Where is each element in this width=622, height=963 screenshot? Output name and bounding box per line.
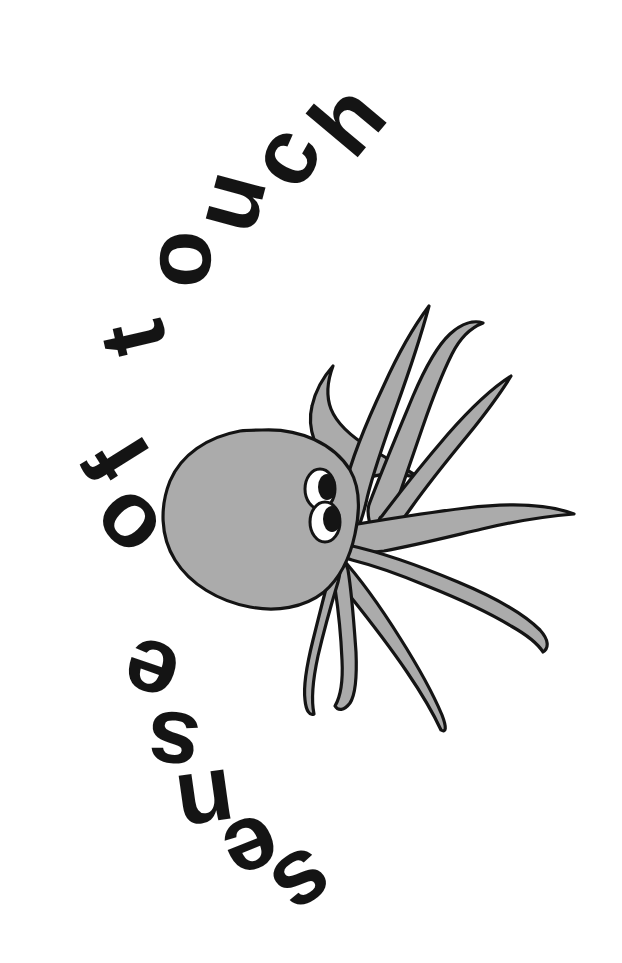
upper-eye-pupil	[318, 474, 336, 500]
title-letter-9: o	[124, 222, 231, 289]
lower-eye-pupil	[323, 506, 341, 532]
poster-canvas: s e n s e o f t o u c h sense of touch o…	[0, 0, 622, 963]
illustration-svg: s e n s e o f t o u c h	[0, 0, 622, 963]
